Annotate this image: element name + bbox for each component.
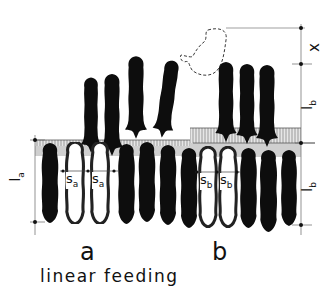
spacing-label-b1: sb (200, 173, 213, 190)
spacing-label-a2: sa (92, 172, 104, 189)
caption: linear feeding (40, 268, 178, 285)
dimension-label-x: x (307, 43, 322, 52)
dimension-label-la: la (8, 172, 26, 181)
linear-feeding-diagram (0, 0, 333, 298)
spacing-label-b2: sb (220, 173, 233, 190)
dimension-label-lb-upper: lb (300, 100, 318, 110)
panel-label-a: a (80, 240, 95, 264)
dimension-label-lb-lower: lb (300, 182, 318, 192)
spacing-label-a1: sa (66, 172, 78, 189)
panel-label-b: b (212, 240, 227, 264)
